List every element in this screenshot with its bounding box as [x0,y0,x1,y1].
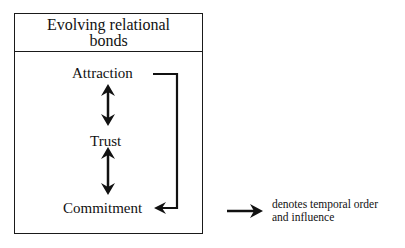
bidirectional-arrow-attraction-trust [101,84,115,126]
temporal-arrow-attraction-commitment [153,74,177,214]
legend-line-2: and influence [272,211,378,224]
legend-arrow-icon [227,204,263,218]
legend-line-1: denotes temporal order [272,198,378,211]
bidirectional-arrow-trust-commitment [101,147,115,195]
legend-description: denotes temporal order and influence [272,198,378,224]
